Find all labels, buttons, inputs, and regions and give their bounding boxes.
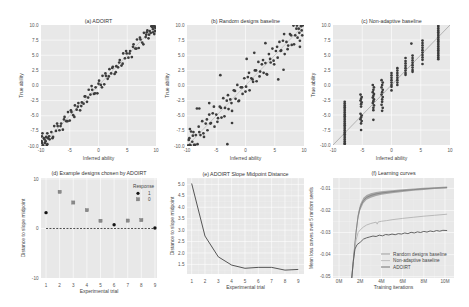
data-point xyxy=(87,96,90,99)
data-point xyxy=(202,132,205,135)
data-point xyxy=(226,143,229,146)
data-point xyxy=(373,104,376,107)
x-tick-label: 4 xyxy=(86,283,89,288)
y-tick-label: 0.0 xyxy=(32,83,39,88)
data-point xyxy=(56,122,59,125)
y-tick-label: -10.0 xyxy=(320,143,331,148)
data-point xyxy=(52,136,55,139)
x-tick-label: -10 xyxy=(184,148,191,153)
data-point xyxy=(198,107,201,110)
data-point xyxy=(396,79,399,82)
x-tick-label: 6M xyxy=(399,279,406,284)
data-point xyxy=(208,102,211,105)
data-point xyxy=(296,24,299,27)
data-point xyxy=(255,80,258,83)
data-point xyxy=(189,144,192,147)
data-point xyxy=(111,67,114,70)
x-axis-label: Experimental trial xyxy=(226,284,265,290)
data-point xyxy=(373,86,376,89)
x-tick-label: 8 xyxy=(284,279,287,284)
x-tick-label: 5 xyxy=(126,148,129,153)
plot-area xyxy=(187,178,304,274)
y-tick-label: -10.0 xyxy=(174,144,185,149)
panel-title: (b) Random designs baseline xyxy=(211,18,280,24)
data-point xyxy=(211,112,214,115)
data-point xyxy=(381,88,384,91)
data-point xyxy=(245,85,248,88)
data-point xyxy=(273,63,276,66)
data-point xyxy=(154,27,157,30)
y-tick-label: 7.5 xyxy=(32,38,39,43)
data-point xyxy=(98,79,101,82)
data-point xyxy=(128,52,131,55)
data-point xyxy=(262,59,265,62)
y-tick-label: -5.0 xyxy=(323,113,331,118)
data-point xyxy=(132,43,135,46)
x-tick-label: 7 xyxy=(126,283,129,288)
y-tick-label: 2.0 xyxy=(178,251,185,256)
legend-label-response-0: 0 xyxy=(148,197,151,202)
data-point xyxy=(151,26,154,29)
data-point xyxy=(258,75,261,78)
panel-e-slope-midpoint-distance: (e) ADOIRT Slope Midpoint Distance Exper… xyxy=(169,171,305,290)
data-point xyxy=(108,68,111,71)
data-point xyxy=(217,117,220,120)
y-tick-label: -5.0 xyxy=(177,113,185,118)
data-point xyxy=(255,69,258,72)
design-point-response-0 xyxy=(140,218,143,221)
data-point xyxy=(290,34,293,37)
data-point xyxy=(73,116,76,119)
x-tick-label: -5 xyxy=(360,148,365,153)
data-point xyxy=(87,88,90,91)
data-point xyxy=(225,99,228,102)
data-point xyxy=(421,46,424,49)
x-tick-label: 4M xyxy=(378,279,385,284)
data-point xyxy=(231,110,234,113)
legend-label-response-1: 1 xyxy=(148,191,151,196)
data-point xyxy=(421,49,424,52)
data-point xyxy=(201,120,204,123)
data-point xyxy=(104,72,107,75)
y-axis-label: True ability xyxy=(310,72,316,97)
data-point xyxy=(268,53,271,56)
data-point xyxy=(121,62,124,65)
data-point xyxy=(372,118,375,121)
data-point xyxy=(230,102,233,105)
x-tick-label: 4 xyxy=(230,279,233,284)
y-tick-label: 5.0 xyxy=(178,53,185,58)
panel-title: (c) Non-adaptive baseline xyxy=(361,18,421,24)
data-point xyxy=(62,128,65,131)
data-point xyxy=(390,89,393,92)
x-tick-label: 1 xyxy=(190,279,193,284)
data-point xyxy=(220,116,223,119)
plot-background xyxy=(187,178,304,274)
data-point xyxy=(198,131,201,134)
data-point xyxy=(372,106,375,109)
x-tick-label: 5 xyxy=(244,279,247,284)
data-point xyxy=(55,130,58,133)
data-point xyxy=(300,25,303,28)
data-point xyxy=(96,92,99,95)
x-tick-label: -10 xyxy=(330,148,337,153)
legend-marker-response-1 xyxy=(136,192,139,195)
data-point xyxy=(396,72,399,75)
data-point xyxy=(269,61,272,64)
data-point xyxy=(404,73,407,76)
x-tick-label: 10 xyxy=(447,148,453,153)
data-point xyxy=(223,115,226,118)
data-point xyxy=(101,74,104,77)
data-point xyxy=(187,139,190,142)
data-point xyxy=(124,57,127,60)
y-tick-label: -0.01 xyxy=(320,186,331,191)
data-point xyxy=(219,74,222,77)
x-tick-label: 6 xyxy=(257,279,260,284)
data-point xyxy=(68,119,71,122)
data-point xyxy=(197,125,200,128)
data-point xyxy=(257,61,260,64)
data-point xyxy=(48,135,51,138)
y-tick-label: -2.5 xyxy=(323,98,331,103)
data-point xyxy=(59,125,62,128)
data-point xyxy=(118,61,121,64)
x-tick-label: 3 xyxy=(72,283,75,288)
data-point xyxy=(231,122,234,125)
